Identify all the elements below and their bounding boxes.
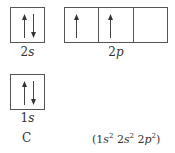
orbital-cell: [11, 75, 44, 109]
orbital-cell-empty: [134, 8, 167, 42]
orbital-box-2s: [10, 7, 45, 43]
spin-up-arrow-icon: [21, 14, 28, 38]
term-exponent: 2: [130, 132, 134, 140]
electron-configuration: (1s2 2s2 2p2): [92, 132, 160, 146]
label-letter: p: [116, 45, 124, 59]
orbital-box-2p: [64, 7, 168, 43]
orbital-box-1s: [10, 74, 45, 110]
config-term-2s: 2s2: [117, 133, 134, 146]
element-symbol: C: [22, 131, 31, 145]
label-letter: s: [28, 111, 34, 125]
spin-down-arrow-icon: [30, 14, 37, 38]
term-n: 2: [138, 133, 145, 146]
orbital-cell: [99, 8, 133, 42]
config-term-1s: 1s2: [96, 133, 113, 146]
orbital-label-2p: 2p: [64, 45, 168, 59]
spin-up-arrow-icon: [73, 14, 80, 38]
orbital-label-2s: 2s: [10, 45, 45, 59]
term-l: p: [145, 133, 152, 146]
paren-close: ): [156, 133, 160, 146]
term-n: 2: [117, 133, 124, 146]
spin-down-arrow-icon: [30, 81, 37, 105]
orbital-cell: [65, 8, 99, 42]
orbital-label-1s: 1s: [10, 111, 45, 125]
orbital-cell: [11, 8, 44, 42]
label-letter: s: [28, 45, 34, 59]
label-number: 2: [108, 45, 116, 59]
term-exponent: 2: [109, 132, 113, 140]
config-term-2p: 2p2: [138, 133, 157, 146]
spin-up-arrow-icon: [107, 14, 114, 38]
spin-up-arrow-icon: [21, 81, 28, 105]
